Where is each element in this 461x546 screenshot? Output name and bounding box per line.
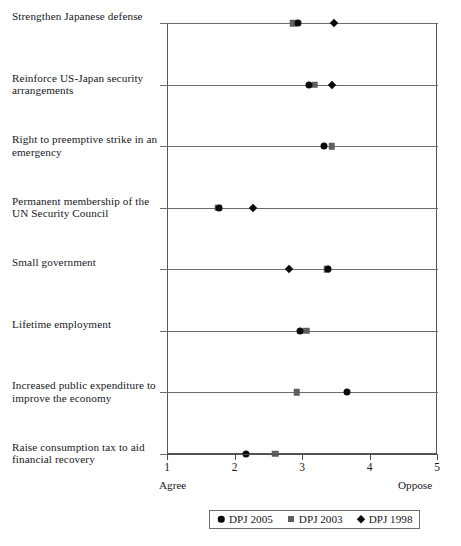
x-axis-tick-label: 4	[358, 461, 382, 473]
chart-legend: DPJ 2005DPJ 2003DPJ 1998	[209, 510, 420, 529]
data-point-square	[293, 389, 300, 396]
circle-marker-icon	[217, 515, 225, 523]
legend-label: DPJ 2003	[299, 513, 343, 525]
plot-frame	[167, 23, 437, 454]
legend-label: DPJ 1998	[369, 513, 413, 525]
category-label: Permanent membership of the UN Security …	[12, 195, 162, 220]
axis-low-label: Agree	[159, 479, 186, 491]
data-point-circle	[305, 81, 312, 88]
legend-entry: DPJ 1998	[357, 513, 413, 525]
category-label: Small government	[12, 256, 162, 269]
data-point-circle	[325, 266, 332, 273]
data-point-circle	[215, 204, 222, 211]
diamond-marker-icon	[357, 515, 365, 523]
x-axis-line	[167, 454, 438, 455]
x-axis-tick-label: 3	[290, 461, 314, 473]
legend-entry: DPJ 2005	[217, 513, 273, 525]
data-point-circle	[320, 143, 327, 150]
data-point-circle	[294, 20, 301, 27]
data-point-square	[328, 143, 335, 150]
category-rule	[167, 208, 438, 209]
x-axis-tick-label: 2	[223, 461, 247, 473]
category-rule	[167, 392, 438, 393]
axis-high-label: Oppose	[398, 479, 432, 491]
category-tick	[160, 23, 167, 24]
category-tick	[160, 269, 167, 270]
policy-position-chart: Strengthen Japanese defenseReinforce US-…	[0, 0, 461, 546]
category-rule	[167, 269, 438, 270]
data-point-circle	[343, 389, 350, 396]
category-rule	[167, 23, 438, 24]
data-point-square	[312, 81, 319, 88]
legend-entry: DPJ 2003	[287, 513, 343, 525]
category-label: Raise consumption tax to aid financial r…	[12, 441, 162, 466]
category-label: Strengthen Japanese defense	[12, 10, 162, 23]
square-marker-icon	[287, 515, 295, 523]
x-axis-tick-label: 5	[425, 461, 449, 473]
category-rule	[167, 85, 438, 86]
legend-label: DPJ 2005	[229, 513, 273, 525]
category-label: Increased public expenditure to improve …	[12, 379, 162, 404]
data-point-circle	[296, 327, 303, 334]
x-axis-tick-label: 1	[155, 461, 179, 473]
category-label: Reinforce US-Japan security arrangements	[12, 72, 162, 97]
data-point-square	[303, 328, 310, 335]
category-tick	[160, 331, 167, 332]
category-label: Lifetime employment	[12, 318, 162, 331]
category-label: Right to preemptive strike in an emergen…	[12, 133, 162, 158]
category-rule	[167, 146, 438, 147]
